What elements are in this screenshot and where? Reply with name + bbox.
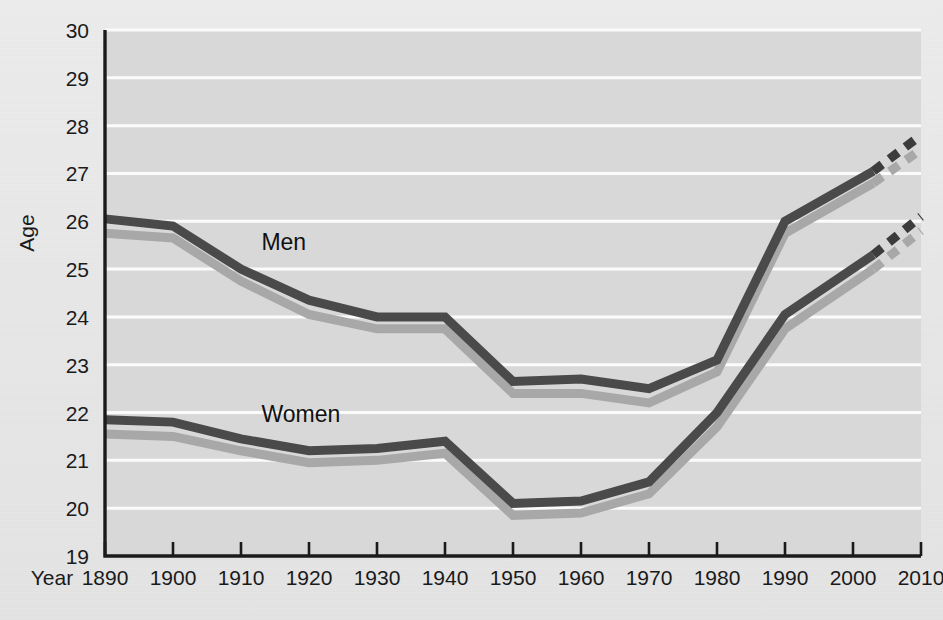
y-tick-label-21: 21	[66, 449, 89, 472]
x-tick-label-1890: 1890	[82, 566, 129, 589]
x-tick-label-1980: 1980	[694, 566, 741, 589]
y-tick-label-25: 25	[66, 258, 89, 281]
x-axis-tick-labels: 1890190019101920193019401950196019701980…	[82, 566, 943, 589]
y-tick-label-27: 27	[66, 162, 89, 185]
x-tick-label-1910: 1910	[218, 566, 265, 589]
x-tick-label-2000: 2000	[830, 566, 877, 589]
x-tick-label-2010: 2010	[898, 566, 943, 589]
chart-page: 192021222324252627282930 189019001910192…	[0, 0, 943, 620]
axis-titles: AgeYear	[15, 214, 73, 589]
y-tick-label-30: 30	[66, 19, 89, 42]
x-axis-title: Year	[31, 566, 73, 589]
x-tick-label-1970: 1970	[626, 566, 673, 589]
x-tick-label-1960: 1960	[558, 566, 605, 589]
y-tick-label-24: 24	[66, 306, 90, 329]
y-tick-label-28: 28	[66, 115, 89, 138]
y-tick-label-22: 22	[66, 402, 89, 425]
plot-background	[105, 30, 921, 556]
x-tick-label-1930: 1930	[354, 566, 401, 589]
x-tick-label-1900: 1900	[150, 566, 197, 589]
x-tick-label-1920: 1920	[286, 566, 333, 589]
x-tick-label-1940: 1940	[422, 566, 469, 589]
y-tick-label-26: 26	[66, 210, 89, 233]
x-tick-label-1950: 1950	[490, 566, 537, 589]
x-tick-label-1990: 1990	[762, 566, 809, 589]
annotation-women: Women	[261, 401, 340, 427]
y-tick-label-20: 20	[66, 497, 89, 520]
y-tick-label-29: 29	[66, 67, 89, 90]
y-axis-title: Age	[15, 214, 38, 251]
annotation-men: Men	[261, 229, 306, 255]
y-axis-tick-labels: 192021222324252627282930	[66, 19, 90, 568]
line-chart: 192021222324252627282930 189019001910192…	[0, 0, 943, 620]
y-tick-label-23: 23	[66, 354, 89, 377]
y-tick-label-19: 19	[66, 545, 89, 568]
